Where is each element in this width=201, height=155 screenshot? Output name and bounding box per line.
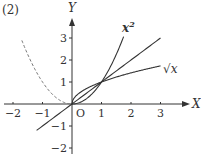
- function-graph: (2) X Y O −2−1123 321−1−2 x2 √x: [0, 0, 201, 155]
- y-tick-label: −2: [51, 142, 67, 155]
- x-tick-label: −1: [34, 107, 50, 120]
- x-axis-arrow-icon: [182, 101, 190, 107]
- y-tick-label: −1: [51, 120, 67, 133]
- x-tick-label: 2: [128, 107, 135, 120]
- origin-label: O: [76, 107, 85, 120]
- problem-label: (2): [2, 3, 19, 17]
- x-tick-label: −2: [5, 107, 21, 120]
- x-tick-label: 1: [98, 107, 105, 120]
- x-tick-label: 3: [157, 107, 164, 120]
- y-ticks: 321−1−2: [51, 32, 72, 155]
- y-tick-label: 1: [60, 76, 67, 89]
- y-tick-label: 2: [60, 54, 67, 67]
- x-squared-label: x2: [121, 19, 135, 35]
- x-squared-curve: [72, 37, 124, 104]
- y-axis-arrow-icon: [69, 18, 75, 26]
- sqrt-x-label: √x: [163, 62, 178, 76]
- y-tick-label: 3: [60, 32, 67, 45]
- x-squared-left-dashed-curve: [22, 40, 72, 104]
- y-axis-label: Y: [68, 1, 77, 15]
- x-axis-label: X: [191, 97, 201, 111]
